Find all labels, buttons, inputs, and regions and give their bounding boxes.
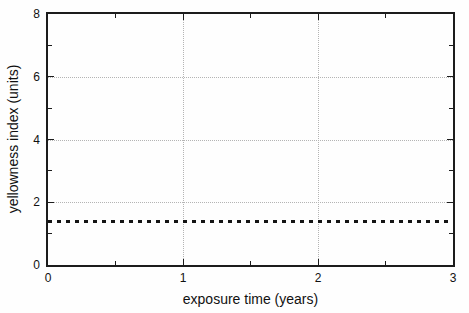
y-major-tick <box>48 202 54 203</box>
y-minor-tick <box>48 45 52 46</box>
x-tick-label: 0 <box>45 271 52 285</box>
y-tick-label: 0 <box>0 258 40 272</box>
chart-figure: exposure time (years) yellowness index (… <box>0 0 469 313</box>
plot-area <box>46 12 455 267</box>
x-major-tick <box>318 14 319 20</box>
x-tick-label: 2 <box>315 271 322 285</box>
y-minor-tick <box>449 170 453 171</box>
x-axis-title: exposure time (years) <box>48 291 453 307</box>
y-minor-tick <box>48 233 52 234</box>
y-minor-tick <box>48 170 52 171</box>
y-minor-tick <box>449 45 453 46</box>
y-major-tick <box>48 139 54 140</box>
x-tick-label: 1 <box>180 271 187 285</box>
x-minor-tick <box>250 14 251 18</box>
y-tick-label: 6 <box>0 70 40 84</box>
y-major-tick <box>447 76 453 77</box>
data-series-dashed-line <box>48 220 453 223</box>
y-major-tick <box>447 202 453 203</box>
y-major-tick <box>48 76 54 77</box>
y-gridline <box>48 202 453 203</box>
y-tick-label: 4 <box>0 133 40 147</box>
y-minor-tick <box>449 233 453 234</box>
x-minor-tick <box>385 261 386 265</box>
y-minor-tick <box>48 108 52 109</box>
x-major-tick <box>183 259 184 265</box>
x-minor-tick <box>115 261 116 265</box>
x-tick-label: 3 <box>450 271 457 285</box>
x-major-tick <box>183 14 184 20</box>
x-minor-tick <box>115 14 116 18</box>
y-gridline <box>48 140 453 141</box>
y-tick-label: 8 <box>0 7 40 21</box>
x-minor-tick <box>385 14 386 18</box>
y-major-tick <box>447 139 453 140</box>
x-major-tick <box>318 259 319 265</box>
y-minor-tick <box>449 108 453 109</box>
y-tick-label: 2 <box>0 195 40 209</box>
x-minor-tick <box>250 261 251 265</box>
y-gridline <box>48 77 453 78</box>
